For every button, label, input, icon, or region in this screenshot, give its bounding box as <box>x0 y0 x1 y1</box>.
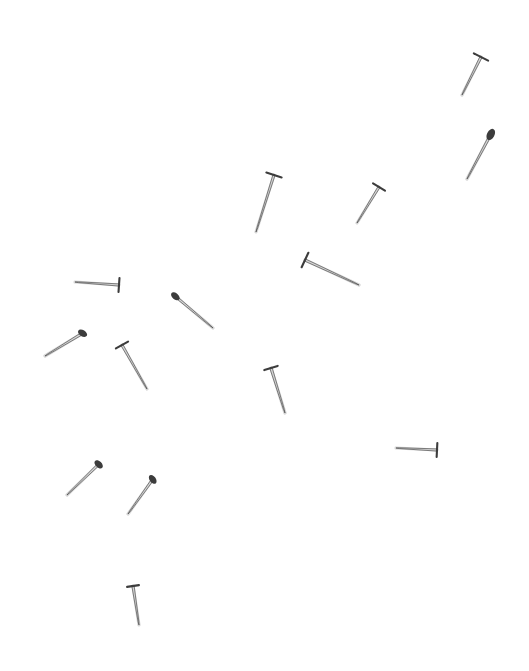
nails-illustration <box>0 0 529 671</box>
image-canvas <box>0 0 529 671</box>
nail-head <box>437 443 438 457</box>
nail-head <box>119 278 120 292</box>
